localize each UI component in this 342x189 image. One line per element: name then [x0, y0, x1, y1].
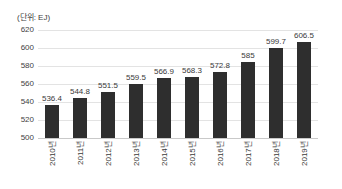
bar-column: 572.8	[213, 30, 228, 138]
bar	[45, 105, 60, 138]
x-axis-label-slot: 2012년	[94, 141, 122, 187]
bar	[73, 98, 88, 138]
y-axis-tick-label: 560	[12, 80, 34, 88]
x-axis-category-label: 2010년	[48, 141, 57, 166]
x-axis-label-slot: 2013년	[122, 141, 150, 187]
bar-column: 566.9	[157, 30, 172, 138]
x-axis-label-slot: 2015년	[178, 141, 206, 187]
x-axis-category-label: 2015년	[188, 141, 197, 166]
bar-value-label: 599.7	[266, 38, 286, 46]
x-axis-category-label: 2014년	[160, 141, 169, 166]
bar-column: 559.5	[129, 30, 144, 138]
bar-column: 599.7	[269, 30, 284, 138]
x-axis-label-slot: 2016년	[206, 141, 234, 187]
bar-value-label: 568.3	[182, 67, 202, 75]
x-axis-category-label: 2018년	[272, 141, 281, 166]
x-axis-label-slot: 2019년	[290, 141, 318, 187]
unit-caption: (단위: EJ)	[17, 13, 50, 23]
x-axis-label-slot: 2018년	[262, 141, 290, 187]
x-axis-category-label: 2011년	[76, 141, 85, 165]
x-axis-category-label: 2016년	[216, 141, 225, 166]
bar-column: 536.4	[45, 30, 60, 138]
bar-column: 544.8	[73, 30, 88, 138]
y-axis-tick-label: 500	[12, 134, 34, 142]
bar	[241, 62, 256, 139]
y-axis-tick-label: 540	[12, 98, 34, 106]
plot-area: 536.4544.8551.5559.5566.9568.3572.858559…	[38, 30, 318, 138]
x-axis-label-slot: 2010년	[38, 141, 66, 187]
y-axis-tick-label: 520	[12, 116, 34, 124]
bar-value-label: 544.8	[70, 88, 90, 96]
x-axis-category-label: 2019년	[300, 141, 309, 166]
bar	[297, 42, 312, 138]
x-axis-label-slot: 2011년	[66, 141, 94, 187]
y-axis-tick-label: 580	[12, 62, 34, 70]
bar	[269, 48, 284, 138]
bar-value-label: 585	[241, 52, 254, 60]
bar-value-label: 566.9	[154, 68, 174, 76]
bar-column: 606.5	[297, 30, 312, 138]
x-axis-category-label: 2013년	[132, 141, 141, 166]
bar-column: 585	[241, 30, 256, 138]
x-axis-category-label: 2017년	[244, 141, 253, 166]
gridline	[38, 138, 318, 139]
y-axis-tick-label: 620	[12, 26, 34, 34]
bar-value-label: 572.8	[210, 62, 230, 70]
y-axis-tick-label: 600	[12, 44, 34, 52]
bar	[101, 92, 116, 138]
bar-chart: (단위: EJ) 620600580560540520500 536.4544.…	[0, 0, 342, 189]
bar	[185, 77, 200, 138]
x-axis-label-slot: 2014년	[150, 141, 178, 187]
bar-value-label: 536.4	[42, 95, 62, 103]
x-axis-category-labels: 2010년2011년2012년2013년2014년2015년2016년2017년…	[38, 141, 318, 187]
x-axis-label-slot: 2017년	[234, 141, 262, 187]
bar-value-label: 559.5	[126, 74, 146, 82]
bar-column: 568.3	[185, 30, 200, 138]
bar	[157, 78, 172, 138]
bar-value-label: 551.5	[98, 82, 118, 90]
bar-column: 551.5	[101, 30, 116, 138]
bar	[129, 84, 144, 138]
x-axis-category-label: 2012년	[104, 141, 113, 166]
bar	[213, 72, 228, 138]
bar-value-label: 606.5	[294, 32, 314, 40]
